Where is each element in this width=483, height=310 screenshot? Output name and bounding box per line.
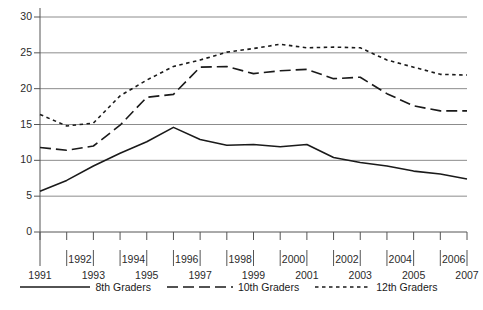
y-axis-tick-label: 10 [8,154,32,165]
series-line-10th-graders [40,66,467,150]
y-axis-tick-label: 5 [8,190,32,201]
x-axis-tick-label: 2000 [274,254,314,265]
legend-item: 8th Graders [20,281,166,293]
legend-swatch-dotted [315,283,371,291]
y-axis-tick-label: 30 [8,11,32,22]
x-axis-tick-label: 2007 [447,270,483,281]
legend-label: 12th Graders [376,281,437,293]
x-axis-tick-label: 1996 [167,254,207,265]
x-axis-tick-label: 2002 [327,254,367,265]
legend-label: 8th Graders [95,281,150,293]
series-line-12th-graders [40,44,467,126]
y-axis-tick-label: 20 [8,83,32,94]
x-axis-tick-label: 1995 [127,270,167,281]
x-axis-tick-label: 1998 [220,254,260,265]
y-axis-tick-label: 25 [8,47,32,58]
x-axis-tick-label: 1993 [73,270,113,281]
legend-item: 12th Graders [315,281,453,293]
x-axis-tick-label: 2001 [287,270,327,281]
legend-swatch-dashed [167,283,233,291]
x-axis-tick-label: 1994 [113,254,153,265]
y-axis-tick-label: 0 [8,226,32,237]
x-axis-tick-label: 1997 [180,270,220,281]
y-axis-tick-label: 15 [8,119,32,130]
x-axis-tick-label: 2006 [434,254,474,265]
legend-label: 10th Graders [238,281,299,293]
x-axis-tick-label: 2004 [380,254,420,265]
x-axis-tick-label: 1999 [234,270,274,281]
x-axis-tick-label: 1991 [20,270,60,281]
legend-swatch-solid [20,283,90,291]
x-axis-tick-label: 2003 [340,270,380,281]
x-axis-tick-label: 1992 [60,254,100,265]
legend-item: 10th Graders [167,281,315,293]
x-axis-tick-label: 2005 [394,270,434,281]
chart-legend: 8th Graders10th Graders12th Graders [0,281,474,293]
